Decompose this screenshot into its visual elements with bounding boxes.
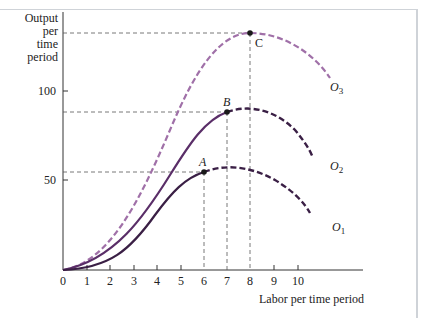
y-label-line: period (25, 51, 58, 64)
curve-label-o3: O3 (330, 80, 343, 96)
curve-label-o2: O2 (330, 159, 343, 175)
x-tick-label: 6 (196, 274, 212, 289)
x-tick-label: 4 (149, 274, 165, 289)
x-tick-label: 5 (173, 274, 189, 289)
chart-canvas (0, 0, 426, 318)
curve-o2-solid (63, 112, 227, 270)
x-tick-label: 8 (242, 274, 258, 289)
x-tick-label: 9 (266, 274, 282, 289)
point-label-b: B (223, 95, 230, 110)
point-c (247, 30, 253, 36)
curve-label-sub: 1 (341, 226, 346, 236)
x-tick-label: 1 (79, 274, 95, 289)
curve-o2-dashed (227, 109, 313, 158)
curve-o3 (63, 33, 330, 270)
point-b (224, 109, 230, 115)
curve-label-text: O (330, 159, 339, 173)
reference-lines (63, 33, 250, 270)
curve-label-o1: O1 (332, 220, 345, 236)
point-label-a: A (199, 155, 206, 170)
x-tick-label: 0 (55, 274, 71, 289)
curve-o1-solid (63, 172, 204, 270)
x-tick-label: 7 (219, 274, 235, 289)
point-a (201, 169, 207, 175)
y-tick-label-50: 50 (26, 173, 56, 188)
y-tick-label-100: 100 (26, 84, 56, 99)
curve-label-text: O (332, 220, 341, 234)
y-axis-label: Output per time period (25, 12, 58, 64)
curve-label-sub: 2 (339, 165, 344, 175)
x-ticks (87, 265, 298, 270)
curve-label-sub: 3 (339, 86, 344, 96)
curve-label-text: O (330, 80, 339, 94)
x-tick-label: 2 (102, 274, 118, 289)
curve-o1-dashed (204, 167, 310, 213)
x-axis-label: Labor per time period (259, 292, 364, 307)
point-label-c: C (255, 36, 263, 51)
x-tick-label: 3 (126, 274, 142, 289)
x-tick-label: 10 (290, 274, 306, 289)
